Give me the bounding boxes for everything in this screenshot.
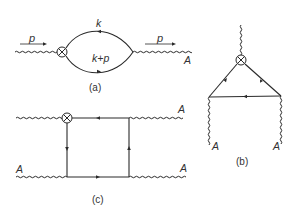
arrow-head-icon bbox=[243, 95, 247, 99]
fermion-left-edge bbox=[209, 64, 237, 97]
photon-line-out bbox=[133, 51, 192, 53]
photon-line-bottom-left bbox=[16, 176, 67, 178]
photon-line-top bbox=[240, 25, 242, 58]
feynman-diagrams: p k k+p p A (a) bbox=[0, 0, 300, 212]
photon-line-right bbox=[280, 96, 282, 144]
photon-line-top-right bbox=[129, 117, 183, 119]
fermion-loop-top bbox=[66, 31, 133, 52]
label-p-out: p bbox=[156, 32, 163, 44]
label-A-top-right: A bbox=[177, 103, 185, 115]
photon-line-left bbox=[208, 97, 210, 145]
arrow-head-icon bbox=[97, 30, 101, 34]
arrow-head-icon bbox=[127, 146, 131, 150]
label-A-left: A bbox=[211, 140, 219, 152]
vertex-cross-icon bbox=[62, 113, 72, 123]
label-A-bottom-right: A bbox=[179, 162, 187, 174]
arrow-head-icon bbox=[65, 147, 69, 151]
photon-line-in bbox=[15, 51, 59, 53]
arrow-head-icon bbox=[96, 175, 100, 179]
photon-line-top-left bbox=[16, 117, 63, 119]
label-p-in: p bbox=[28, 32, 35, 44]
caption-b: (b) bbox=[236, 156, 248, 167]
diagram-b: A A (b) bbox=[208, 25, 282, 167]
diagram-c: A A A (c) bbox=[15, 103, 187, 205]
fermion-right-edge bbox=[245, 64, 281, 96]
label-k: k bbox=[96, 17, 102, 29]
photon-line-bottom-right bbox=[129, 176, 186, 178]
caption-a: (a) bbox=[89, 82, 101, 93]
label-k-plus-p: k+p bbox=[92, 52, 109, 64]
vertex-cross-icon bbox=[236, 55, 246, 65]
arrow-head-icon bbox=[172, 42, 176, 46]
label-A-bottom-left: A bbox=[15, 163, 23, 175]
diagram-a: p k k+p p A (a) bbox=[15, 17, 192, 93]
vertex-cross-icon bbox=[57, 47, 67, 57]
label-A-right: A bbox=[272, 140, 280, 152]
arrow-head-icon bbox=[96, 116, 100, 120]
arrow-head-icon bbox=[43, 42, 47, 46]
caption-c: (c) bbox=[92, 194, 104, 205]
label-A: A bbox=[183, 54, 191, 66]
